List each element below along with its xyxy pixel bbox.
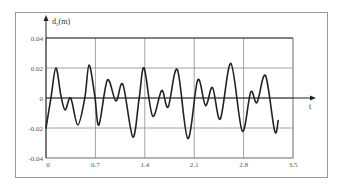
y-tick-label: 0.02	[31, 65, 44, 73]
x-tick-label: 1.4	[140, 161, 149, 169]
y-tick-label: -0.02	[28, 125, 43, 133]
x-tick-label: 2.1	[190, 161, 199, 169]
x-tick-label: 0	[46, 161, 50, 169]
x-tick-label: 0.7	[91, 161, 100, 169]
chart: 0.040.020-0.02-0.04 00.71.42.12.83.5 d2(…	[0, 0, 339, 185]
y-axis-label: d2(m)	[52, 17, 70, 27]
y-tick-label: 0	[40, 95, 44, 103]
x-tick-label: 2.8	[239, 161, 248, 169]
y-tick-label: 0.04	[31, 35, 44, 43]
x-tick-label: 3.5	[289, 161, 298, 169]
y-tick-label: -0.04	[28, 155, 43, 163]
